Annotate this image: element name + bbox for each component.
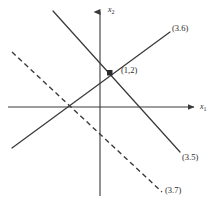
y-axis-label: x2 xyxy=(108,6,115,14)
constraint-line-3-5 xyxy=(53,11,180,152)
graph-figure: x2 x1 (3.6) (3.5) (3.7) (1,2) xyxy=(0,0,220,206)
equation-label-3-6: (3.6) xyxy=(172,24,188,33)
intersection-point-marker xyxy=(107,70,113,76)
x-axis-label: x1 xyxy=(200,103,207,111)
equation-label-3-7: (3.7) xyxy=(165,186,181,195)
constraint-line-3-7 xyxy=(12,52,162,192)
equation-label-3-5: (3.5) xyxy=(182,153,198,162)
constraint-line-3-6 xyxy=(12,32,170,148)
intersection-point-label: (1,2) xyxy=(121,66,137,75)
